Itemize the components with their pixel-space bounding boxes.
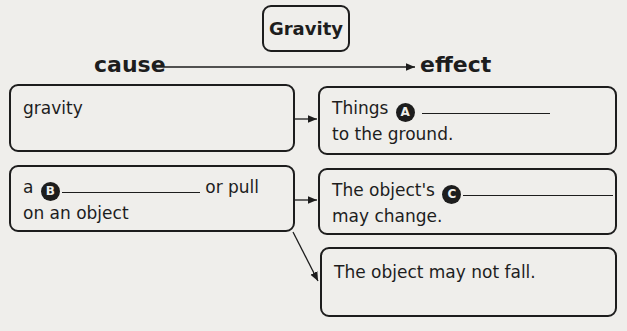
effect-box-motion-change: The object's C may change. [318, 168, 617, 235]
cause-text: gravity [23, 96, 83, 120]
cause-box-gravity: gravity [9, 84, 295, 152]
cause-label: cause [94, 52, 166, 77]
effect-line2: to the ground. [332, 124, 453, 144]
effect-prefix: The object's [332, 180, 435, 200]
cause-box-push-pull: a B or pull on an object [9, 165, 295, 232]
effect-label: effect [420, 52, 491, 77]
blank-c-input[interactable] [463, 179, 613, 196]
blank-b-input[interactable] [62, 176, 200, 193]
badge-a: A [396, 103, 415, 122]
diagram-title: Gravity [269, 18, 343, 39]
title-box: Gravity [262, 5, 350, 52]
cause-line2: on an object [23, 203, 129, 223]
effect-text: The object may not fall. [334, 260, 536, 284]
badge-b: B [41, 182, 60, 201]
effect-line2: may change. [332, 206, 442, 226]
effect-box-may-not-fall: The object may not fall. [320, 247, 617, 317]
badge-c: C [442, 185, 461, 204]
cause-prefix: a [23, 177, 33, 197]
blank-a-input[interactable] [422, 97, 550, 114]
cause-suffix: or pull [205, 177, 259, 197]
effect-box-things-fall: Things A to the ground. [318, 86, 617, 155]
effect-prefix: Things [332, 98, 388, 118]
